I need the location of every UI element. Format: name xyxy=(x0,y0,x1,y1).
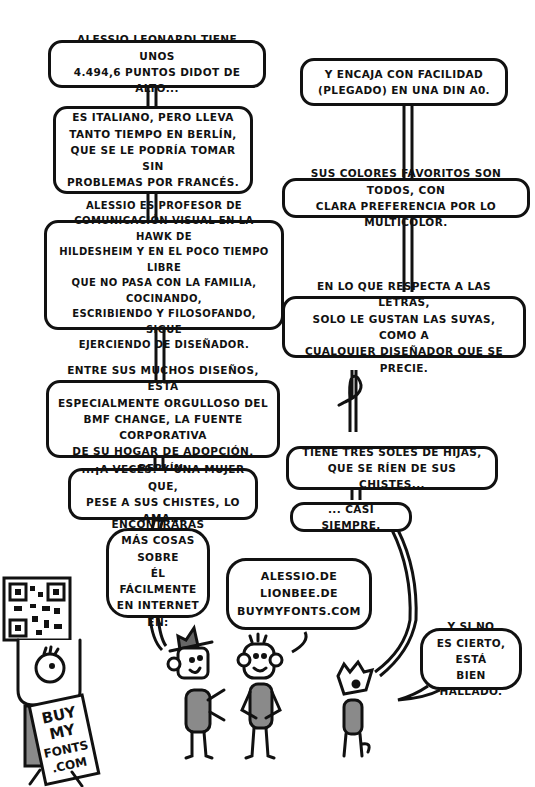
qr-code-icon xyxy=(4,578,70,640)
characters-illustration: BUY MY FONTS .COM xyxy=(0,0,535,787)
